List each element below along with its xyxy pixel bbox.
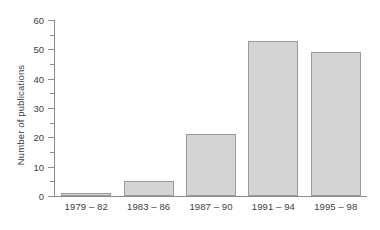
bar-chart: Number of publications 0102030405060 197… — [0, 0, 380, 230]
y-tick-label: 60 — [14, 15, 44, 26]
y-tick-major — [48, 20, 55, 21]
x-tick-label: 1983 – 86 — [117, 201, 179, 212]
bar — [61, 193, 111, 196]
y-tick-label: 10 — [14, 161, 44, 172]
y-tick-major — [48, 167, 55, 168]
y-tick-label: 0 — [14, 191, 44, 202]
y-tick-major — [48, 79, 55, 80]
bar — [186, 134, 236, 196]
bar — [248, 41, 298, 196]
y-tick-label: 40 — [14, 73, 44, 84]
y-tick-label: 20 — [14, 132, 44, 143]
y-tick-major — [48, 108, 55, 109]
y-tick-major — [48, 137, 55, 138]
bars-layer — [55, 20, 367, 196]
x-tick-label: 1995 – 98 — [305, 201, 367, 212]
y-tick-major — [48, 196, 55, 197]
bar — [124, 181, 174, 196]
x-axis-line — [54, 196, 367, 197]
y-tick-label: 50 — [14, 44, 44, 55]
bar — [311, 52, 361, 196]
x-tick-label: 1987 – 90 — [180, 201, 242, 212]
y-tick-label: 30 — [14, 103, 44, 114]
x-tick-label: 1979 – 82 — [55, 201, 117, 212]
y-tick-major — [48, 49, 55, 50]
x-tick-label: 1991 – 94 — [242, 201, 304, 212]
